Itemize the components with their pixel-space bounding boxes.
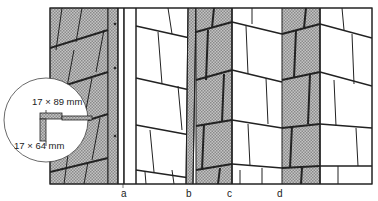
label-a: a: [121, 189, 127, 199]
label-d: d: [277, 189, 283, 199]
label-b: b: [186, 189, 192, 199]
shaded-section-d: [282, 8, 320, 184]
dimension-top: 17 × 89 mm: [32, 97, 82, 107]
label-c: c: [227, 189, 232, 199]
dimension-bottom: 17 × 64 mm: [14, 141, 64, 151]
corner-board-a: [108, 8, 136, 184]
shaded-section-bc: [196, 8, 232, 184]
